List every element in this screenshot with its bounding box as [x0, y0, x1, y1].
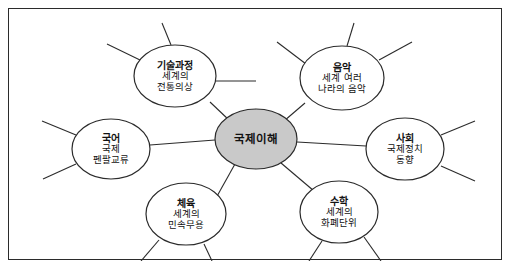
node-korean-spoke-0	[42, 121, 76, 135]
node-society-connector	[297, 142, 366, 146]
node-korean[interactable]	[72, 119, 150, 179]
diagram-canvas	[9, 9, 503, 261]
node-korean-connector	[150, 140, 215, 145]
node-technology-spoke-1	[162, 23, 171, 45]
node-physical-education-connector	[216, 164, 235, 198]
node-mathematics[interactable]	[300, 181, 378, 243]
node-society-spoke-1	[441, 166, 475, 181]
node-mathematics-connector	[281, 163, 314, 191]
node-music-spoke-2	[277, 42, 306, 64]
diagram-frame: 기술과정세계의전통의상음악세계 여러나라의 음악국어국제펜팔교류사회국제정치동향…	[8, 8, 502, 260]
node-music-connector	[284, 103, 305, 121]
node-mathematics-spoke-1	[364, 237, 381, 261]
node-technology-spoke-0	[107, 44, 140, 60]
node-physical-education-spoke-1	[204, 244, 212, 261]
node-physical-education[interactable]	[146, 183, 226, 245]
node-center[interactable]	[215, 109, 297, 169]
node-society-spoke-0	[441, 121, 475, 135]
node-music-spoke-0	[379, 42, 412, 60]
node-technology[interactable]	[134, 45, 216, 107]
node-music[interactable]	[300, 46, 384, 110]
node-korean-spoke-1	[43, 164, 76, 179]
node-society[interactable]	[366, 118, 444, 180]
node-mathematics-spoke-0	[309, 241, 322, 261]
node-music-spoke-1	[347, 23, 354, 46]
node-physical-education-spoke-0	[141, 240, 159, 261]
